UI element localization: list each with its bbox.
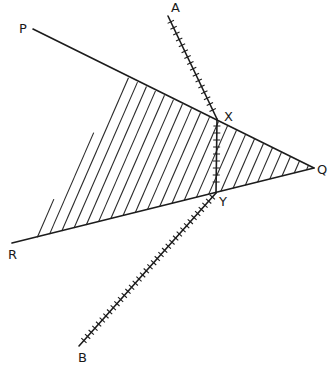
point-labels: P Q R A B X Y <box>8 0 327 365</box>
shaded-region-hatching <box>37 78 308 237</box>
label-y: Y <box>218 194 227 209</box>
label-b: B <box>78 350 87 365</box>
label-p: P <box>19 21 27 36</box>
label-x: X <box>224 109 233 124</box>
label-a: A <box>171 0 180 15</box>
lines <box>12 16 314 346</box>
geometry-diagram: P Q R A B X Y <box>0 0 334 366</box>
tick-marks <box>81 20 220 342</box>
line-ax <box>168 16 217 119</box>
label-r: R <box>8 247 17 262</box>
segment-xy <box>216 119 217 193</box>
line-rq <box>12 168 314 243</box>
line-pq <box>33 29 314 168</box>
label-q: Q <box>317 162 327 177</box>
line-yb <box>79 193 216 346</box>
